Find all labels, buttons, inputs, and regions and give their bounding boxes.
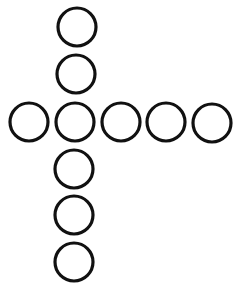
circle-node — [57, 55, 95, 93]
circle-node — [56, 103, 94, 141]
circle-node — [147, 103, 185, 141]
circle-node — [58, 8, 96, 46]
circle-node — [55, 150, 93, 188]
circle-node — [55, 243, 93, 281]
circle-node — [10, 103, 48, 141]
circle-cross-diagram — [0, 0, 243, 294]
circle-node — [102, 103, 140, 141]
circle-node — [55, 196, 93, 234]
circle-node — [193, 104, 231, 142]
